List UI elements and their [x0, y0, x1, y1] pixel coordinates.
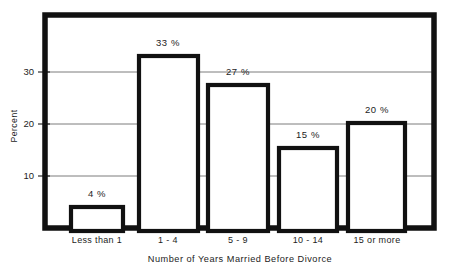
- x-label-less-than-1: Less than 1: [72, 235, 122, 245]
- x-label-5-9: 5 - 9: [228, 235, 248, 245]
- y-tick-label-30: 30: [23, 66, 34, 77]
- y-tick-label-10: 10: [23, 170, 34, 181]
- bar-10-14: [279, 148, 337, 231]
- bar-value-less-than-1: 4 %: [88, 188, 106, 199]
- bar-5-9: [208, 85, 268, 231]
- x-label-1-4: 1 - 4: [158, 235, 178, 245]
- x-label-15-or-more: 15 or more: [353, 235, 400, 245]
- bar-15-or-more: [348, 123, 405, 231]
- y-tick-label-20: 20: [23, 118, 34, 129]
- chart-canvas: 10 20 30 Percent 4 % 33 % 27 % 15 % 20 %…: [0, 0, 453, 272]
- bar-value-15-or-more: 20 %: [365, 104, 389, 115]
- bar-value-10-14: 15 %: [296, 129, 320, 140]
- y-axis-title: Percent: [9, 109, 19, 142]
- bar-chart-figure: 10 20 30 Percent 4 % 33 % 27 % 15 % 20 %…: [0, 0, 453, 272]
- bar-value-5-9: 27 %: [226, 66, 250, 77]
- bar-1-4: [139, 56, 198, 231]
- bar-value-1-4: 33 %: [156, 37, 180, 48]
- bar-less-than-1: [71, 207, 123, 231]
- x-label-10-14: 10 - 14: [293, 235, 323, 245]
- x-axis-title: Number of Years Married Before Divorce: [148, 254, 332, 264]
